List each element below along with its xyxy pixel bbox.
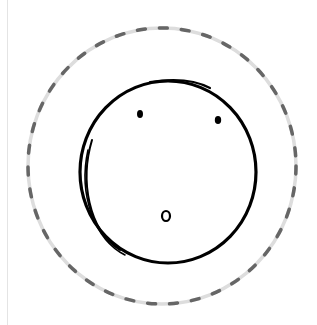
- left-eye: [137, 110, 143, 118]
- mouth: [162, 211, 170, 221]
- right-eye: [215, 116, 221, 124]
- face-outline: [80, 80, 256, 263]
- drawing-canvas: [0, 0, 317, 325]
